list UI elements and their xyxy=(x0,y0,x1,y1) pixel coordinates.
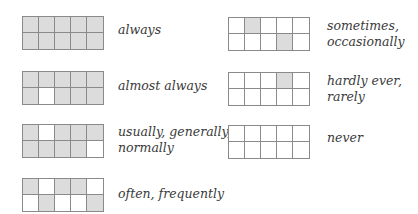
empty-cell xyxy=(277,18,293,34)
filled-cell xyxy=(87,17,103,33)
filled-cell xyxy=(39,17,55,33)
empty-cell xyxy=(293,34,309,50)
empty-cell xyxy=(39,88,55,104)
empty-cell xyxy=(293,18,309,34)
filled-cell xyxy=(71,88,87,104)
empty-cell xyxy=(261,142,277,158)
empty-cell xyxy=(229,34,245,50)
empty-cell xyxy=(71,195,87,211)
filled-cell xyxy=(71,72,87,88)
empty-cell xyxy=(229,73,245,89)
empty-cell xyxy=(245,142,261,158)
empty-cell xyxy=(87,179,103,195)
frequency-label-hardly-ever: hardly ever, rarely xyxy=(327,73,402,105)
filled-cell xyxy=(23,72,39,88)
filled-cell xyxy=(55,17,71,33)
empty-cell xyxy=(293,142,309,158)
filled-cell xyxy=(55,88,71,104)
frequency-grid-hardly-ever xyxy=(228,72,310,106)
filled-cell xyxy=(23,179,39,195)
filled-cell xyxy=(71,125,87,141)
empty-cell xyxy=(261,126,277,142)
filled-cell xyxy=(39,72,55,88)
frequency-grid-never xyxy=(228,125,310,159)
empty-cell xyxy=(277,89,293,105)
frequency-label-never: never xyxy=(327,130,363,146)
frequency-grid-sometimes xyxy=(228,17,310,51)
frequency-grid-often xyxy=(22,178,104,212)
filled-cell xyxy=(39,195,55,211)
filled-cell xyxy=(87,88,103,104)
empty-cell xyxy=(55,195,71,211)
filled-cell xyxy=(55,179,71,195)
filled-cell xyxy=(55,141,71,157)
filled-cell xyxy=(87,33,103,49)
frequency-grid-always xyxy=(22,16,104,50)
empty-cell xyxy=(261,89,277,105)
filled-cell xyxy=(245,18,261,34)
frequency-grid-almost-always xyxy=(22,71,104,105)
empty-cell xyxy=(293,126,309,142)
empty-cell xyxy=(245,34,261,50)
empty-cell xyxy=(39,125,55,141)
filled-cell xyxy=(71,141,87,157)
empty-cell xyxy=(39,179,55,195)
empty-cell xyxy=(245,126,261,142)
filled-cell xyxy=(87,195,103,211)
filled-cell xyxy=(23,141,39,157)
filled-cell xyxy=(71,17,87,33)
empty-cell xyxy=(277,142,293,158)
filled-cell xyxy=(55,33,71,49)
frequency-label-sometimes: sometimes, occasionally xyxy=(327,18,404,50)
filled-cell xyxy=(87,125,103,141)
filled-cell xyxy=(55,125,71,141)
filled-cell xyxy=(23,125,39,141)
empty-cell xyxy=(277,126,293,142)
filled-cell xyxy=(277,34,293,50)
empty-cell xyxy=(261,73,277,89)
frequency-label-usually: usually, generally, normally xyxy=(118,124,231,156)
frequency-label-always: always xyxy=(118,22,161,38)
filled-cell xyxy=(23,33,39,49)
empty-cell xyxy=(23,195,39,211)
empty-cell xyxy=(229,18,245,34)
empty-cell xyxy=(229,89,245,105)
empty-cell xyxy=(229,142,245,158)
filled-cell xyxy=(71,179,87,195)
empty-cell xyxy=(261,34,277,50)
frequency-grid-usually xyxy=(22,124,104,158)
filled-cell xyxy=(277,73,293,89)
filled-cell xyxy=(39,33,55,49)
filled-cell xyxy=(23,17,39,33)
frequency-label-often: often, frequently xyxy=(118,186,224,202)
empty-cell xyxy=(261,18,277,34)
empty-cell xyxy=(87,141,103,157)
filled-cell xyxy=(87,72,103,88)
filled-cell xyxy=(39,141,55,157)
empty-cell xyxy=(293,73,309,89)
frequency-label-almost-always: almost always xyxy=(118,78,207,94)
filled-cell xyxy=(23,88,39,104)
empty-cell xyxy=(245,73,261,89)
filled-cell xyxy=(55,72,71,88)
empty-cell xyxy=(245,89,261,105)
empty-cell xyxy=(293,89,309,105)
filled-cell xyxy=(71,33,87,49)
empty-cell xyxy=(229,126,245,142)
